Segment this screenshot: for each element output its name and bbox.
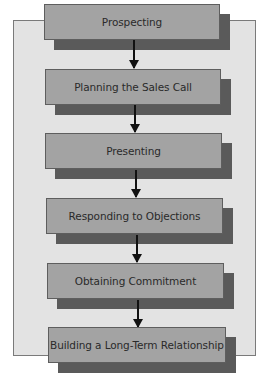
step-box: Prospecting bbox=[44, 4, 220, 40]
arrow-down-icon bbox=[137, 300, 139, 327]
step-responding-to-objections: Responding to Objections bbox=[46, 198, 223, 234]
step-label: Responding to Objections bbox=[69, 210, 201, 222]
arrow-down-icon bbox=[135, 170, 137, 197]
arrow-down-icon bbox=[134, 105, 136, 132]
step-label: Planning the Sales Call bbox=[74, 81, 192, 93]
step-box: Presenting bbox=[45, 133, 222, 169]
step-label: Obtaining Commitment bbox=[75, 275, 196, 287]
arrow-down-icon bbox=[133, 40, 135, 68]
step-box: Planning the Sales Call bbox=[45, 69, 221, 105]
step-box: Responding to Objections bbox=[46, 198, 223, 234]
step-label: Prospecting bbox=[102, 16, 162, 28]
step-building-long-term-relationship: Building a Long-Term Relationship bbox=[48, 327, 226, 363]
arrow-down-icon bbox=[136, 235, 138, 262]
step-obtaining-commitment: Obtaining Commitment bbox=[47, 263, 224, 299]
step-label: Building a Long-Term Relationship bbox=[50, 339, 224, 351]
step-presenting: Presenting bbox=[45, 133, 222, 169]
step-box: Obtaining Commitment bbox=[47, 263, 224, 299]
step-box: Building a Long-Term Relationship bbox=[48, 327, 226, 363]
step-prospecting: Prospecting bbox=[44, 4, 220, 40]
step-planning-sales-call: Planning the Sales Call bbox=[45, 69, 221, 105]
step-label: Presenting bbox=[106, 145, 161, 157]
